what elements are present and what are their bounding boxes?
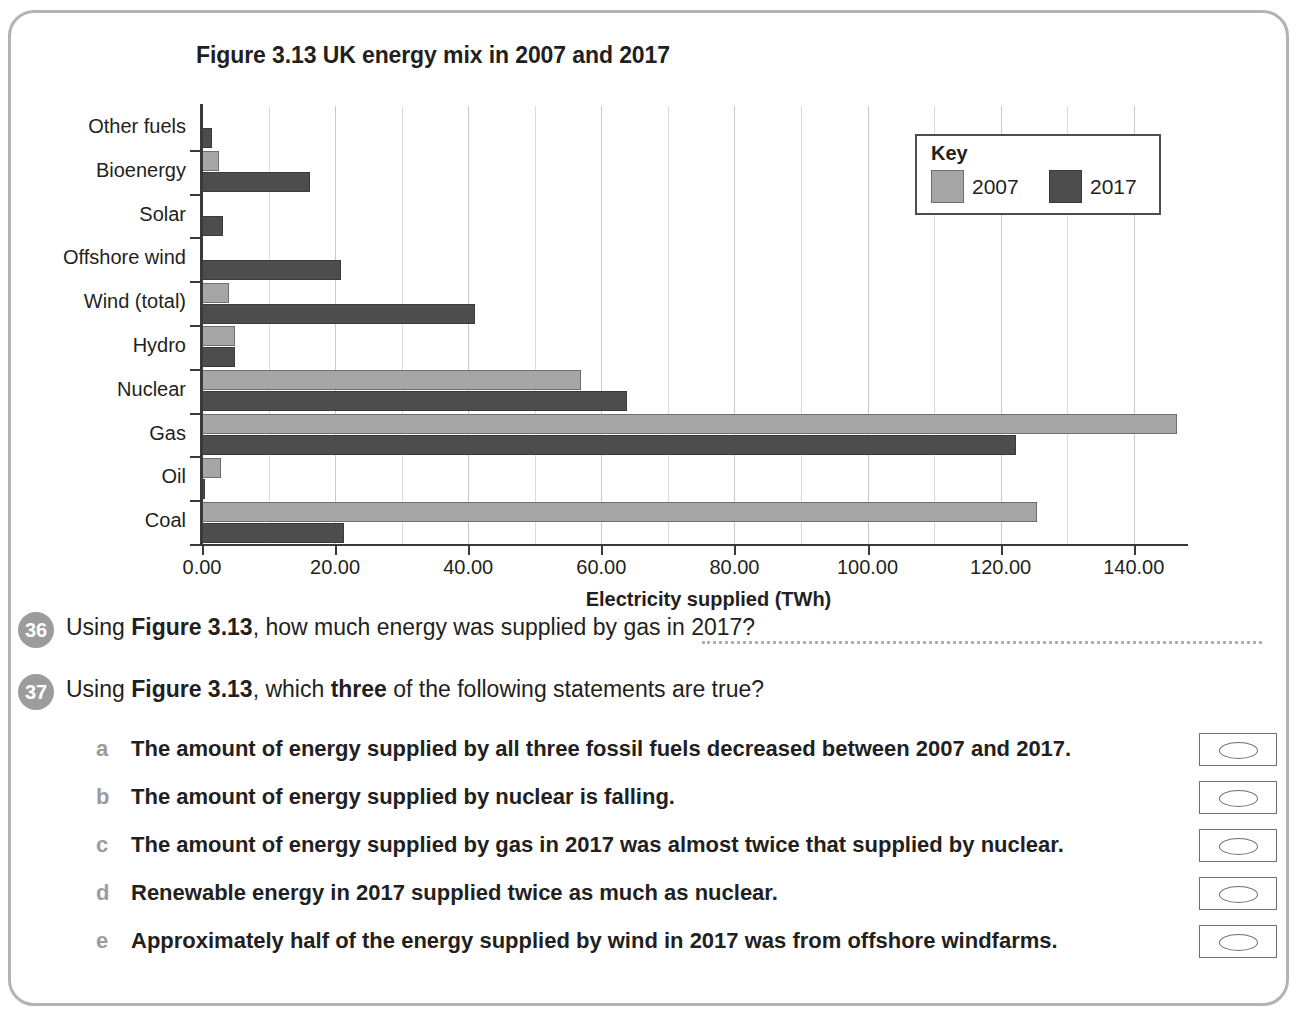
legend-swatch-2007-icon [931, 170, 964, 203]
option-letter: d [96, 880, 109, 906]
answer-checkbox-d[interactable] [1199, 877, 1277, 910]
category-label-hydro: Hydro [6, 334, 186, 357]
bar-coal-2017 [202, 523, 344, 543]
questions-section: 36Using Figure 3.13, how much energy was… [0, 612, 1307, 976]
category-label-other-fuels: Other fuels [6, 115, 186, 138]
answer-checkbox-a[interactable] [1199, 733, 1277, 766]
bar-bioenergy-2007 [202, 151, 219, 171]
bar-coal-2007 [202, 502, 1037, 522]
x-axis-title-text: Electricity supplied (TWh) [586, 588, 832, 610]
y-axis-tick [190, 413, 202, 415]
x-axis-tick [868, 546, 870, 555]
energy-mix-bar-chart: Other fuelsBioenergySolarOffshore windWi… [0, 0, 1307, 600]
x-axis-tick [468, 546, 470, 555]
category-label-wind-total: Wind (total) [6, 290, 186, 313]
answer-bubble-icon[interactable] [1219, 934, 1258, 951]
x-axis-tick-label: 60.00 [546, 556, 656, 579]
option-letter: c [96, 832, 108, 858]
bar-oil-2007 [202, 458, 221, 478]
x-axis-tick [734, 546, 736, 555]
x-axis-line [200, 544, 1188, 546]
y-axis-tick [190, 325, 202, 327]
gridline-minor [668, 106, 669, 544]
question-number-badge: 36 [18, 612, 54, 648]
option-letter: a [96, 736, 108, 762]
y-axis-tick [190, 281, 202, 283]
chart-legend: Key 2007 2017 [915, 134, 1161, 215]
bar-other-fuels-2017 [202, 128, 212, 148]
question-number-badge: 37 [18, 674, 54, 710]
bar-hydro-2007 [202, 326, 235, 346]
option-a: aThe amount of energy supplied by all th… [0, 736, 1307, 784]
gridline-major [468, 106, 469, 544]
gridline-minor [801, 106, 802, 544]
category-axis-labels: Other fuelsBioenergySolarOffshore windWi… [0, 0, 186, 600]
bar-offshore-wind-2017 [202, 260, 341, 280]
legend-label-2007: 2007 [972, 175, 1019, 199]
answer-checkbox-b[interactable] [1199, 781, 1277, 814]
x-axis-tick-label: 0.00 [147, 556, 257, 579]
gridline-major [868, 106, 869, 544]
y-axis-tick [190, 194, 202, 196]
answer-line[interactable] [702, 638, 1262, 644]
answer-bubble-icon[interactable] [1219, 742, 1258, 759]
bar-wind-total-2007 [202, 283, 229, 303]
gridline-minor [535, 106, 536, 544]
question-37: 37Using Figure 3.13, which three of the … [0, 674, 1307, 732]
answer-bubble-icon[interactable] [1219, 790, 1258, 807]
category-label-nuclear: Nuclear [6, 378, 186, 401]
option-c: cThe amount of energy supplied by gas in… [0, 832, 1307, 880]
y-axis-tick [190, 500, 202, 502]
category-label-gas: Gas [6, 422, 186, 445]
option-text: Approximately half of the energy supplie… [131, 928, 1058, 954]
bar-gas-2007 [202, 414, 1177, 434]
option-e: eApproximately half of the energy suppli… [0, 928, 1307, 976]
option-d: dRenewable energy in 2017 supplied twice… [0, 880, 1307, 928]
bar-nuclear-2007 [202, 370, 581, 390]
x-axis-tick [335, 546, 337, 555]
option-b: bThe amount of energy supplied by nuclea… [0, 784, 1307, 832]
x-axis-tick [1134, 546, 1136, 555]
category-label-oil: Oil [6, 465, 186, 488]
x-axis-title: Electricity supplied (TWh) [0, 588, 1307, 611]
legend-entry-2007: 2007 [931, 170, 1019, 203]
answer-bubble-icon[interactable] [1219, 886, 1258, 903]
x-axis-tick-label: 20.00 [280, 556, 390, 579]
option-text: The amount of energy supplied by all thr… [131, 736, 1071, 762]
question-text: Using Figure 3.13, which three of the fo… [66, 676, 764, 703]
y-axis-tick [190, 237, 202, 239]
bar-bioenergy-2017 [202, 172, 310, 192]
bar-solar-2017 [202, 216, 223, 236]
x-axis-tick [1001, 546, 1003, 555]
bar-hydro-2017 [202, 347, 235, 367]
x-axis-tick-label: 100.00 [813, 556, 923, 579]
question-text: Using Figure 3.13, how much energy was s… [66, 614, 755, 641]
category-label-offshore-wind: Offshore wind [6, 246, 186, 269]
answer-checkbox-c[interactable] [1199, 829, 1277, 862]
answer-bubble-icon[interactable] [1219, 838, 1258, 855]
answer-checkbox-e[interactable] [1199, 925, 1277, 958]
option-letter: b [96, 784, 109, 810]
legend-entry-2017: 2017 [1049, 170, 1137, 203]
question-36: 36Using Figure 3.13, how much energy was… [0, 612, 1307, 670]
y-axis-tick [190, 150, 202, 152]
legend-label-2017: 2017 [1090, 175, 1137, 199]
gridline-major [734, 106, 735, 544]
gridline-major [601, 106, 602, 544]
y-axis-tick [190, 544, 202, 546]
gridline-minor [402, 106, 403, 544]
category-label-solar: Solar [6, 203, 186, 226]
legend-title: Key [931, 142, 968, 165]
option-text: The amount of energy supplied by nuclear… [131, 784, 675, 810]
bar-nuclear-2017 [202, 391, 627, 411]
option-letter: e [96, 928, 108, 954]
x-axis-tick-label: 120.00 [946, 556, 1056, 579]
legend-swatch-2017-icon [1049, 170, 1082, 203]
bar-gas-2017 [202, 435, 1016, 455]
y-axis-tick [190, 456, 202, 458]
x-axis-tick [202, 546, 204, 555]
y-axis-tick [190, 369, 202, 371]
gridline-major [335, 106, 336, 544]
x-axis-tick-label: 140.00 [1079, 556, 1189, 579]
x-axis-tick-label: 40.00 [413, 556, 523, 579]
